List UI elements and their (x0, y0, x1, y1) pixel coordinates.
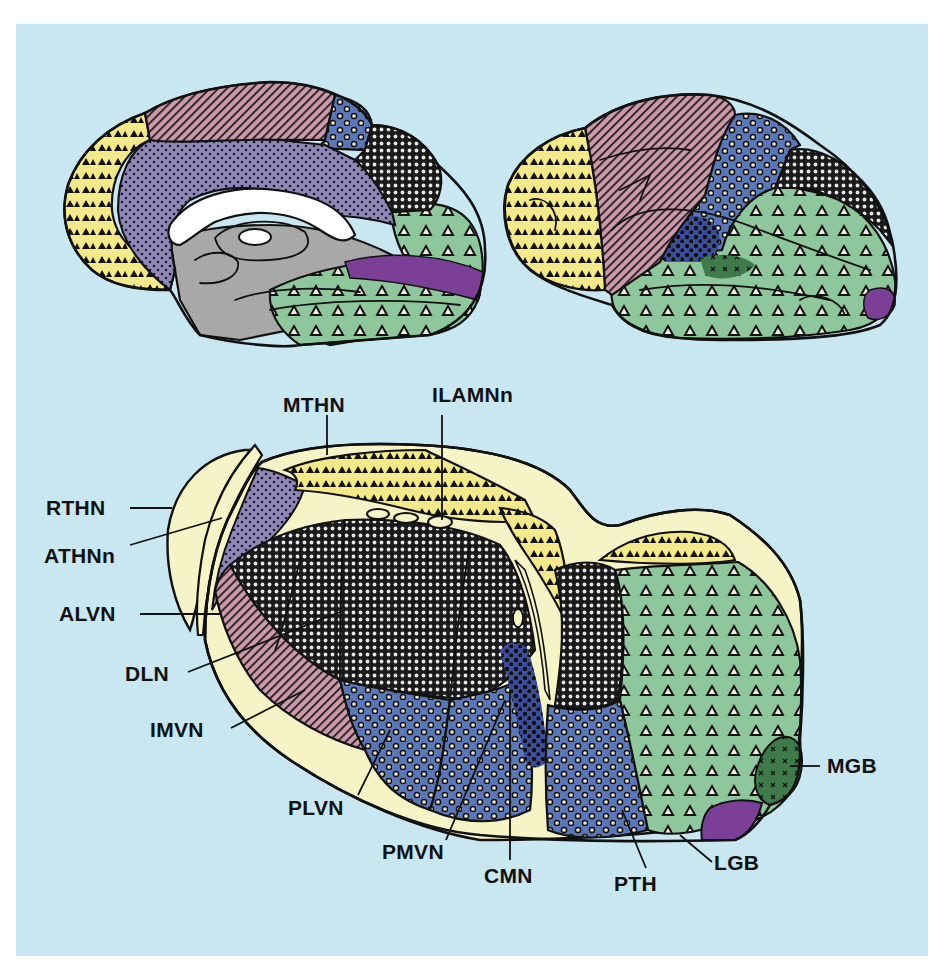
label-lgb: LGB (714, 851, 759, 874)
label-plvn: PLVN (288, 796, 344, 819)
lateral-prefrontal-region (505, 128, 605, 290)
medial-motor-region (145, 82, 335, 148)
lateral-hemisphere-view (504, 94, 896, 340)
label-alvn: ALVN (59, 602, 116, 625)
thalamus-lpn-region (555, 563, 623, 710)
label-rthn: RTHN (46, 496, 106, 519)
medial-ventricle (239, 229, 271, 245)
brain-thalamus-diagram: MTHN ILAMNn RTHN ATHNn ALVN DLN IMVN PLV… (0, 0, 944, 976)
thalamus-small-oval (513, 609, 523, 627)
label-imvn: IMVN (150, 718, 204, 741)
medial-hemisphere-view (64, 82, 485, 346)
label-ilamnn: ILAMNn (432, 383, 513, 406)
thalamus-interthalamic-oval (428, 516, 452, 528)
lateral-visual-region (864, 288, 895, 319)
label-dln: DLN (125, 662, 169, 685)
label-athnn: ATHNn (44, 544, 115, 567)
label-cmn: CMN (484, 864, 533, 887)
thalamus-interthalamic-oval (367, 509, 389, 519)
label-pth: PTH (614, 872, 657, 895)
thalamus-interthalamic-oval (394, 513, 418, 523)
label-mthn: MTHN (283, 393, 345, 416)
label-mgb: MGB (827, 754, 877, 777)
label-pmvn: PMVN (382, 840, 444, 863)
